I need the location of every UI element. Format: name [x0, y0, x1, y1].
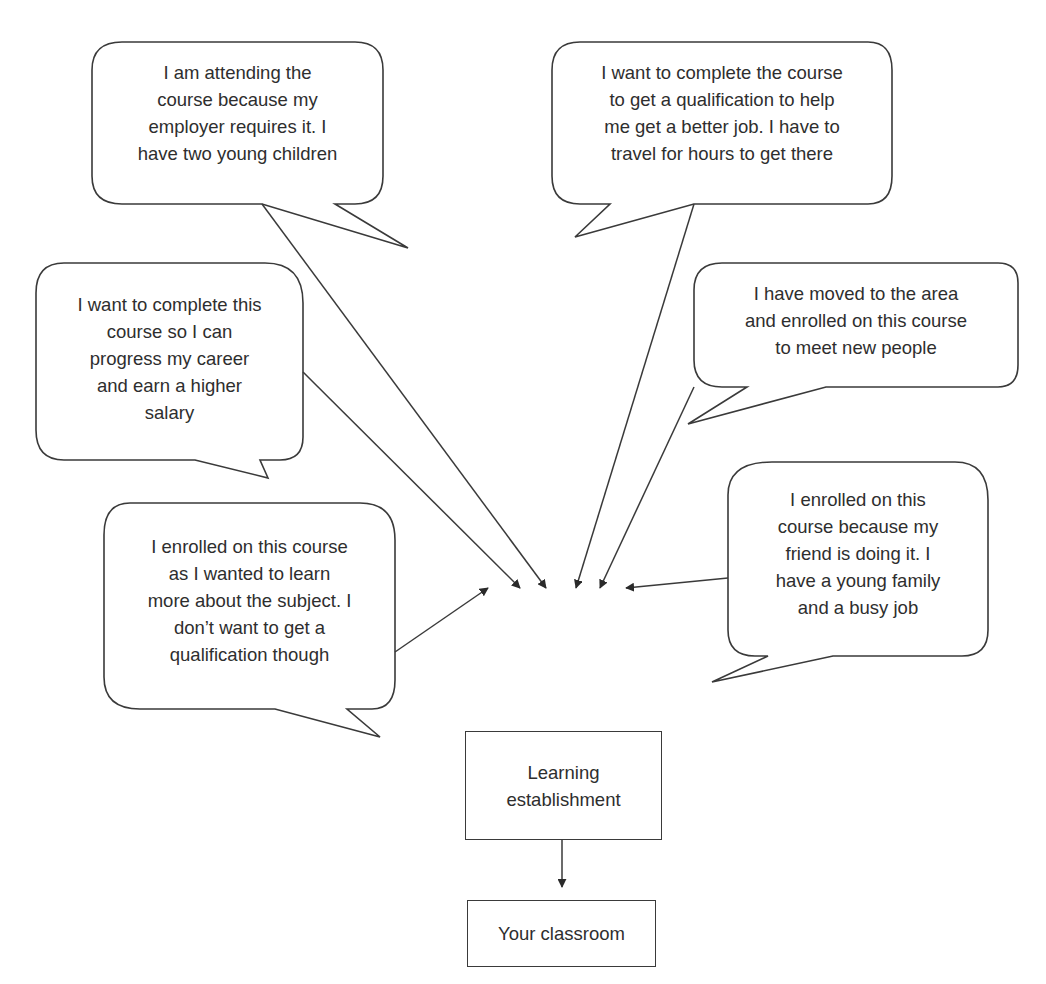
text-line: as I wanted to learn — [169, 560, 330, 587]
text-line: course because my — [778, 513, 938, 540]
text-line: travel for hours to get there — [611, 140, 833, 167]
text-line: and a busy job — [798, 594, 918, 621]
text-line: to meet new people — [775, 334, 936, 361]
arrow-qualification — [576, 204, 694, 588]
text-line: have two young children — [138, 140, 338, 167]
box-label: Learning — [527, 759, 599, 786]
your-classroom-box: Your classroom — [467, 900, 656, 967]
text-line: friend is doing it. I — [786, 540, 931, 567]
arrow-new-area — [600, 387, 694, 588]
text-line: more about the subject. I — [148, 587, 352, 614]
bubble-text-new-area: I have moved to the area and enrolled on… — [694, 265, 1018, 375]
arrow-friend — [626, 578, 728, 588]
text-line: I want to complete the course — [601, 59, 843, 86]
text-line: and enrolled on this course — [745, 307, 967, 334]
bubble-text-learn-subject: I enrolled on this course as I wanted to… — [104, 510, 395, 690]
bubble-text-qualification: I want to complete the course to get a q… — [552, 48, 892, 178]
box-label: Your classroom — [498, 920, 625, 947]
arrow-learn-subject — [395, 588, 488, 652]
text-line: I am attending the — [163, 59, 311, 86]
text-line: and earn a higher — [97, 372, 242, 399]
bubble-text-career: I want to complete this course so I can … — [36, 268, 303, 448]
text-line: salary — [145, 399, 194, 426]
text-line: have a young family — [776, 567, 941, 594]
text-line: qualification though — [170, 641, 329, 668]
text-line: don’t want to get a — [174, 614, 325, 641]
text-line: course so I can — [107, 318, 232, 345]
learning-establishment-box: Learning establishment — [465, 731, 662, 840]
text-line: I enrolled on this — [790, 486, 926, 513]
text-line: to get a qualification to help — [609, 86, 834, 113]
text-line: I have moved to the area — [754, 280, 959, 307]
bubble-text-employer: I am attending the course because my emp… — [92, 48, 383, 178]
text-line: I want to complete this — [77, 291, 261, 318]
text-line: I enrolled on this course — [151, 533, 347, 560]
text-line: employer requires it. I — [149, 113, 327, 140]
bubble-text-friend: I enrolled on this course because my fri… — [728, 468, 988, 638]
text-line: me get a better job. I have to — [604, 113, 840, 140]
text-line: course because my — [157, 86, 317, 113]
box-label: establishment — [506, 786, 620, 813]
text-line: progress my career — [90, 345, 249, 372]
